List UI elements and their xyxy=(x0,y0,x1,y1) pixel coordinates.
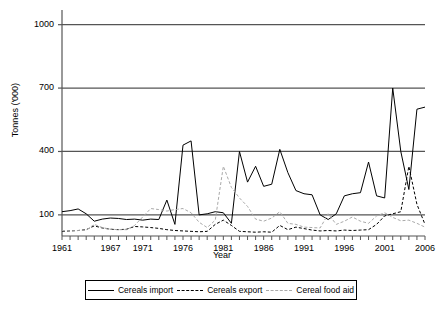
series-line-cereals-import xyxy=(62,88,425,224)
legend-label-cereals-export: Cereals export xyxy=(207,285,262,295)
chart-legend: Cereals import Cereals export Cereal foo… xyxy=(85,280,357,300)
series-line-cereals-export xyxy=(62,166,425,232)
legend-swatch-cereal-food-aid xyxy=(266,290,292,291)
legend-item-cereals-export: Cereals export xyxy=(177,285,262,295)
x-tick-marks xyxy=(62,236,425,240)
series-line-cereal-food-aid xyxy=(62,166,425,231)
legend-item-cereals-import: Cereals import xyxy=(88,285,173,295)
legend-swatch-cereals-import xyxy=(88,290,114,291)
y-tick-label: 400 xyxy=(14,145,54,155)
gridlines xyxy=(62,25,425,215)
legend-label-cereals-import: Cereals import xyxy=(118,285,173,295)
plot-area xyxy=(0,0,444,313)
chart-container: Tonnes ('000) 1004007001000 196119671971… xyxy=(0,0,444,313)
y-tick-label: 100 xyxy=(14,209,54,219)
y-tick-label: 700 xyxy=(14,82,54,92)
legend-swatch-cereals-export xyxy=(177,290,203,291)
legend-item-cereal-food-aid: Cereal food aid xyxy=(266,285,354,295)
y-axis-title: Tonnes ('000) xyxy=(10,65,20,155)
y-tick-label: 1000 xyxy=(14,19,54,29)
legend-label-cereal-food-aid: Cereal food aid xyxy=(296,285,354,295)
x-axis-title: Year xyxy=(0,250,444,260)
data-series-group xyxy=(62,88,425,232)
